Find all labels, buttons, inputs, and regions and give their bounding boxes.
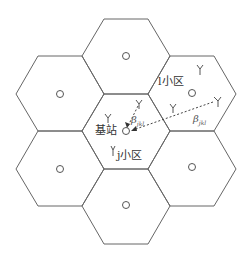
beta-center-label: βjkl bbox=[131, 114, 144, 127]
base-station-center-icon bbox=[123, 128, 130, 135]
user-antenna-icon bbox=[214, 97, 221, 107]
cell-l-label: l小区 bbox=[158, 76, 184, 87]
cell-top bbox=[82, 19, 170, 94]
base-station-top-right-icon bbox=[189, 90, 196, 97]
cell-bottom bbox=[82, 169, 170, 244]
cell-bottom-left bbox=[16, 131, 104, 206]
beta-right-label: βjkl bbox=[193, 113, 206, 126]
user-antenna-icon bbox=[111, 146, 115, 156]
user-antenna-icon bbox=[105, 114, 111, 123]
base-station-label: 基站 bbox=[95, 125, 117, 136]
cell-j-label: j小区 bbox=[117, 150, 142, 161]
cell-top-right bbox=[148, 56, 236, 131]
user-antenna-icon bbox=[170, 104, 176, 113]
cell-bottom-right bbox=[148, 131, 236, 206]
base-station-bottom-icon bbox=[123, 202, 130, 209]
base-station-bottom-right-icon bbox=[189, 164, 196, 171]
base-station-bottom-left-icon bbox=[57, 166, 64, 173]
user-antenna-icon bbox=[197, 65, 203, 75]
cellular-diagram bbox=[0, 0, 247, 262]
cell-top-left bbox=[16, 56, 104, 131]
base-station-top-left-icon bbox=[57, 91, 64, 98]
base-station-top-icon bbox=[123, 53, 130, 60]
